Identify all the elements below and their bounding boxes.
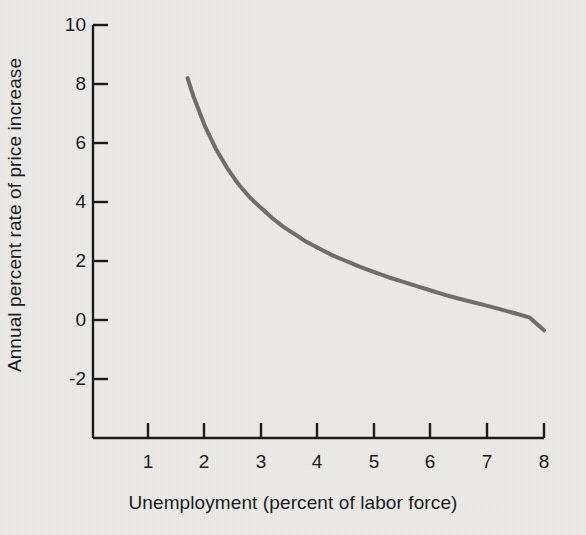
x-tick-label-1: 1	[143, 451, 154, 473]
x-tick-label-6: 6	[425, 451, 436, 473]
x-tick-label-8: 8	[539, 451, 550, 473]
phillips-curve-figure: 10 8 6 4 2 0 -2 1 2 3 4 5 6 7 8 Annual p…	[0, 0, 586, 535]
y-axis-title: Annual percent rate of price increase	[4, 58, 26, 372]
x-axis-title: Unemployment (percent of labor force)	[129, 492, 458, 514]
x-tick-label-layer: 1 2 3 4 5 6 7 8	[0, 0, 586, 535]
x-tick-label-2: 2	[199, 451, 210, 473]
x-tick-label-5: 5	[369, 451, 380, 473]
x-tick-label-7: 7	[482, 451, 493, 473]
x-tick-label-3: 3	[256, 451, 267, 473]
x-tick-label-4: 4	[312, 451, 323, 473]
